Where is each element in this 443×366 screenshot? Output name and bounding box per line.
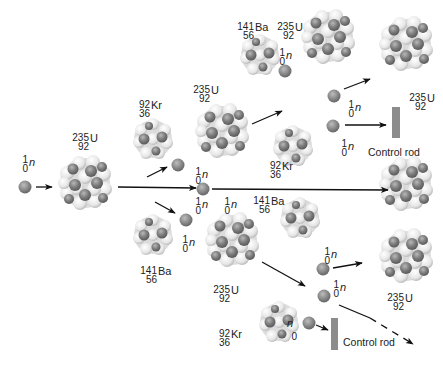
neutron-label: 10 n: [339, 139, 347, 157]
neutron-label: 10 n: [193, 197, 201, 215]
control-rod-2: [331, 318, 338, 350]
u235-label: 23592 U: [382, 293, 404, 311]
u235-label: 23592 U: [67, 133, 89, 151]
neutron-label: 10 n: [180, 235, 188, 253]
kr92-label: 9236 Kr: [265, 161, 281, 179]
diagram-canvas: [0, 0, 443, 366]
kr92-label: 9236 Kr: [214, 329, 230, 347]
neutron-label: 10 n: [14, 155, 28, 173]
control-rod-1: [392, 107, 400, 138]
ba141-label: 14156 Ba: [135, 266, 157, 284]
kr92-label: 9236 Kr: [134, 100, 150, 118]
neutron-label: 10 n: [193, 167, 201, 185]
fission-diagram: 10 n 23592 U 9236 Kr 23592 U 10 n 10 n 1…: [0, 0, 443, 366]
neutron-label: 10 n: [331, 280, 339, 298]
neutron-label: 10 n: [277, 48, 285, 66]
neutron-label: 10 n: [289, 323, 297, 341]
neutron-label: 10 n: [222, 197, 230, 215]
control-rod-label: Control rod: [368, 146, 420, 158]
ba141-label: 14156 Ba: [232, 22, 254, 40]
u235-label: 23592 U: [188, 85, 210, 103]
neutron-label: 10 n: [322, 247, 330, 265]
nuclei: [58, 9, 433, 342]
neutron-label: 10 n: [346, 100, 354, 118]
control-rod-label: Control rod: [343, 336, 395, 348]
ba141-label: 14156 Ba: [248, 196, 270, 214]
u235-label: 23592 U: [208, 285, 230, 303]
u235-label: 23592 U: [272, 22, 294, 40]
u235-label: 23592 U: [404, 93, 426, 111]
